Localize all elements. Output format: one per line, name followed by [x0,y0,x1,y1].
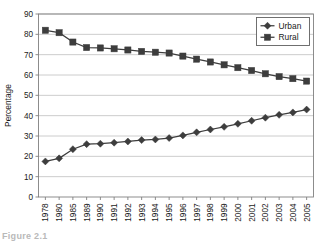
figure-container: 0102030405060708090 19781980198519891990… [0,0,324,241]
data-point-rural-1991 [111,46,117,52]
x-tick-label-1993: 1993 [138,203,147,222]
x-tick-label-1990: 1990 [96,203,105,222]
data-point-rural-1978 [42,27,48,33]
data-point-rural-1993 [139,48,145,54]
y-axis-title: Percentage [3,84,13,127]
x-tick-label-1999: 1999 [220,203,229,222]
x-tick-label-2004: 2004 [289,203,298,222]
data-point-rural-1980 [56,30,62,36]
y-tick-label-20: 20 [24,152,34,161]
y-tick-label-90: 90 [24,10,34,19]
x-tick-label-1996: 1996 [179,203,188,222]
data-point-rural-1994 [152,49,158,55]
y-tick-label-40: 40 [24,112,34,121]
y-tick-label-60: 60 [24,71,34,80]
legend-marker-rural [264,34,270,40]
y-tick-label-50: 50 [24,91,34,100]
data-point-rural-2004 [290,76,296,82]
x-tick-label-1994: 1994 [151,203,160,222]
data-point-rural-2002 [262,71,268,77]
data-point-rural-1995 [166,50,172,56]
x-tick-label-2002: 2002 [261,203,270,222]
x-tick-label-1997: 1997 [193,203,202,222]
x-tick-label-1985: 1985 [69,203,78,222]
legend-label-rural: Rural [279,32,299,42]
line-chart: 0102030405060708090 19781980198519891990… [0,0,324,241]
y-tick-label-80: 80 [24,30,34,39]
x-tick-label-1989: 1989 [83,203,92,222]
figure-caption: Figure 2.1 [2,231,48,241]
data-point-rural-1996 [180,53,186,59]
data-point-rural-2005 [304,78,310,84]
data-point-rural-2001 [249,67,255,73]
y-axis-title-text: Percentage [3,84,13,127]
data-point-rural-2000 [235,65,241,71]
data-point-rural-1998 [207,59,213,65]
x-tick-label-2003: 2003 [275,203,284,222]
x-tick-label-2005: 2005 [303,203,312,222]
x-tick-label-1980: 1980 [55,203,64,222]
x-tick-label-1978: 1978 [41,203,50,222]
data-point-rural-1992 [125,47,131,53]
x-tick-label-1991: 1991 [110,203,119,222]
x-tick-label-1995: 1995 [165,203,174,222]
chart-legend: UrbanRural [257,18,310,46]
data-point-rural-1990 [97,45,103,51]
y-axis-tick-labels: 0102030405060708090 [24,10,39,202]
data-point-rural-1989 [84,44,90,50]
y-tick-label-0: 0 [28,193,33,202]
data-point-rural-1985 [70,39,76,45]
data-point-rural-1997 [194,56,200,62]
y-tick-label-10: 10 [24,173,34,182]
x-tick-label-1992: 1992 [124,203,133,222]
x-tick-label-1998: 1998 [206,203,215,222]
legend-label-urban: Urban [279,21,302,31]
x-tick-label-2001: 2001 [248,203,257,222]
x-tick-label-2000: 2000 [234,203,243,222]
y-tick-label-70: 70 [24,51,34,60]
data-point-rural-1999 [221,62,227,68]
y-tick-label-30: 30 [24,132,34,141]
x-axis-tick-labels: 1978198019851989199019911992199319941995… [41,197,311,222]
data-point-rural-2003 [276,74,282,80]
